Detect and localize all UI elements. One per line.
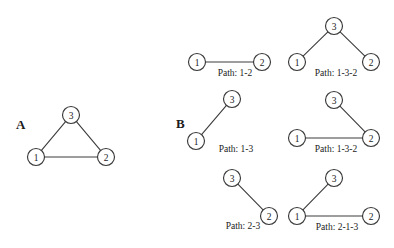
path-caption: Path: 1-3-2 bbox=[315, 144, 358, 154]
node-label-1: 1 bbox=[295, 134, 300, 144]
path-caption: Path: 1-2 bbox=[218, 68, 253, 78]
node-3[interactable]: 3 bbox=[326, 170, 343, 187]
node-label-2: 2 bbox=[104, 153, 109, 163]
node-3[interactable]: 3 bbox=[326, 92, 343, 109]
node-label-1: 1 bbox=[295, 58, 300, 68]
node-label-2: 2 bbox=[369, 134, 374, 144]
node-3[interactable]: 3 bbox=[224, 91, 241, 108]
node-1[interactable]: 1 bbox=[188, 133, 205, 150]
panel-b: B12Path: 1-2312Path: 1-3-231Path: 1-3312… bbox=[176, 18, 380, 233]
node-3[interactable]: 3 bbox=[326, 18, 343, 35]
edge-3-2 bbox=[340, 32, 365, 56]
node-label-1: 1 bbox=[195, 58, 200, 68]
edge-3-1 bbox=[303, 184, 328, 210]
node-2[interactable]: 2 bbox=[363, 54, 380, 71]
path-caption: Path: 2-3 bbox=[226, 221, 261, 231]
panel-label-a: A bbox=[16, 117, 26, 132]
edge-1-3 bbox=[202, 105, 227, 134]
edge-3-1 bbox=[303, 32, 328, 56]
edge-3-2 bbox=[238, 184, 263, 210]
graph-path-1-3: 31Path: 1-3 bbox=[188, 91, 254, 155]
graph-base: 123 bbox=[28, 107, 115, 166]
graph-figure-canvas: A123B12Path: 1-2312Path: 1-3-231Path: 1-… bbox=[0, 0, 394, 248]
node-1[interactable]: 1 bbox=[289, 54, 306, 71]
figure-content-group: A123B12Path: 1-2312Path: 1-3-231Path: 1-… bbox=[16, 18, 380, 233]
node-1[interactable]: 1 bbox=[189, 54, 206, 71]
panel-a: A123 bbox=[16, 107, 115, 166]
node-label-1: 1 bbox=[34, 153, 39, 163]
node-2[interactable]: 2 bbox=[363, 208, 380, 225]
node-label-3: 3 bbox=[332, 96, 337, 106]
node-label-3: 3 bbox=[230, 174, 235, 184]
node-2[interactable]: 2 bbox=[363, 130, 380, 147]
node-3[interactable]: 3 bbox=[63, 107, 80, 124]
node-label-3: 3 bbox=[332, 22, 337, 32]
panel-label-b: B bbox=[176, 116, 185, 131]
node-label-2: 2 bbox=[369, 58, 374, 68]
node-label-3: 3 bbox=[69, 111, 74, 121]
node-1[interactable]: 1 bbox=[28, 149, 45, 166]
node-1[interactable]: 1 bbox=[289, 130, 306, 147]
path-caption: Path: 1-3-2 bbox=[315, 68, 358, 78]
node-2[interactable]: 2 bbox=[254, 54, 271, 71]
node-label-3: 3 bbox=[332, 174, 337, 184]
edge-1-3 bbox=[41, 122, 65, 151]
node-2[interactable]: 2 bbox=[98, 149, 115, 166]
node-label-1: 1 bbox=[295, 212, 300, 222]
node-label-2: 2 bbox=[369, 212, 374, 222]
node-3[interactable]: 3 bbox=[224, 170, 241, 187]
path-caption: Path: 2-1-3 bbox=[316, 222, 359, 232]
graph-path-1-3-2: 312Path: 1-3-2 bbox=[289, 92, 380, 155]
graph-path-2-1-3: 312Path: 2-1-3 bbox=[289, 170, 380, 233]
edge-3-2 bbox=[76, 122, 100, 151]
node-2[interactable]: 2 bbox=[261, 208, 278, 225]
edge-3-2 bbox=[340, 106, 365, 132]
graph-path-2-3: 32Path: 2-3 bbox=[224, 170, 278, 232]
node-label-1: 1 bbox=[194, 137, 199, 147]
graph-path-1-2: 12Path: 1-2 bbox=[189, 54, 271, 79]
figure-root: A123B12Path: 1-2312Path: 1-3-231Path: 1-… bbox=[0, 0, 394, 248]
node-label-2: 2 bbox=[267, 212, 272, 222]
node-1[interactable]: 1 bbox=[289, 208, 306, 225]
node-label-2: 2 bbox=[260, 58, 265, 68]
graph-path-1-3-2: 312Path: 1-3-2 bbox=[289, 18, 380, 79]
path-caption: Path: 1-3 bbox=[219, 144, 254, 154]
node-label-3: 3 bbox=[230, 95, 235, 105]
